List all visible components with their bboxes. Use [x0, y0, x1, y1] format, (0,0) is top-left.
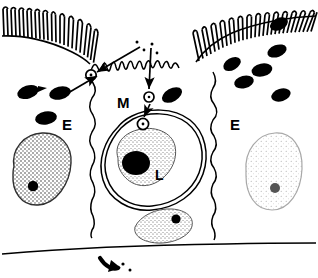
particle-dot: [136, 41, 139, 44]
bacterium: [266, 42, 289, 60]
diagram-canvas: [0, 0, 318, 278]
particle-dot: [129, 269, 132, 272]
label-epithelial-cell-right: E: [230, 117, 240, 132]
m-cell-right-membrane: [211, 72, 217, 240]
bacterium: [233, 73, 256, 90]
brush-border-right: [193, 10, 317, 62]
m-cell-apical-microfolds: [92, 61, 179, 71]
particle-dot: [151, 43, 154, 46]
epithelial-nucleolus-right: [270, 183, 280, 193]
m-cell-lower-nucleus-body: [135, 209, 193, 243]
bacterium: [34, 110, 58, 127]
bacterium: [16, 82, 41, 101]
label-epithelial-cell-left: E: [62, 117, 72, 132]
bacterium-arrowhead-tick: [38, 86, 47, 92]
vesicle-basolateral: [137, 118, 148, 129]
microvilli-loops-left: [3, 7, 98, 63]
m-cell-lower-nucleolus: [171, 214, 180, 223]
brush-border-left: [2, 7, 98, 64]
basement-membrane: [2, 243, 316, 254]
vesicle-mid: [144, 92, 154, 102]
epithelial-nucleus-right: [246, 133, 302, 210]
arrow-uptake-down: [149, 48, 151, 89]
basement-membrane-line: [2, 243, 316, 254]
figure-intestinal-epithelium-m-cell: E E M L: [0, 0, 318, 278]
basal-exit-arrow: [100, 258, 121, 272]
epithelial-nucleolus-left: [28, 181, 38, 191]
m-cell-left-membrane: [90, 68, 96, 238]
lymphocyte-nucleus: [117, 128, 176, 185]
epithelial-nucleus-right-body: [246, 133, 302, 210]
label-lymphocyte: L: [155, 168, 164, 182]
epithelial-nucleus-left-body: [13, 133, 71, 205]
bacterium: [250, 61, 273, 78]
particle-dot: [121, 262, 124, 265]
epithelial-nucleus-left: [13, 133, 71, 205]
lymphocyte-nucleolus: [122, 151, 150, 175]
bacterium: [221, 54, 243, 74]
arrow-vesicle-to-bacteria: [68, 76, 97, 93]
bacterium: [159, 84, 185, 106]
bacterium: [270, 86, 293, 104]
particle-dot: [156, 52, 159, 55]
m-cell-nucleus-lower: [135, 209, 193, 243]
label-m-cell: M: [117, 95, 130, 110]
particle-dot: [143, 49, 146, 52]
